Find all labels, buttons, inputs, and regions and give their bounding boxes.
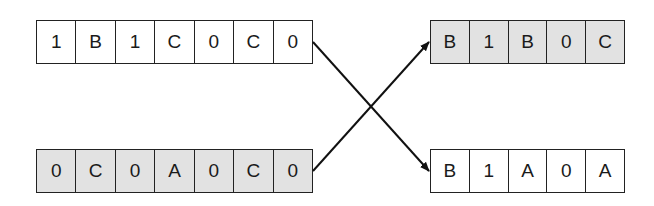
cell: C [76,150,115,192]
cell: B [431,150,470,192]
cell: C [234,21,273,63]
parent-strip-top-left: 1 B 1 C 0 C 0 [36,20,313,64]
child-strip-top-right: B 1 B 0 C [430,20,625,64]
cell: 0 [116,150,155,192]
cell: 0 [274,150,312,192]
cell: 1 [470,150,509,192]
cell: B [431,21,470,63]
child-strip-bottom-right: B 1 A 0 A [430,149,625,193]
cell: 0 [37,150,76,192]
cell: A [155,150,194,192]
cell: 0 [195,150,234,192]
cell: 1 [37,21,76,63]
arrow-top-left-to-bottom-right [313,42,429,171]
cell: 1 [470,21,509,63]
cell: C [234,150,273,192]
parent-strip-bottom-left: 0 C 0 A 0 C 0 [36,149,313,193]
cell: C [155,21,194,63]
cell: A [586,150,624,192]
cell: B [76,21,115,63]
cell: A [509,150,548,192]
cell: 0 [274,21,312,63]
cell: B [509,21,548,63]
arrow-bottom-left-to-top-right [313,42,429,171]
cell: C [586,21,624,63]
cell: 0 [547,21,586,63]
cell: 1 [116,21,155,63]
cell: 0 [547,150,586,192]
cell: 0 [195,21,234,63]
